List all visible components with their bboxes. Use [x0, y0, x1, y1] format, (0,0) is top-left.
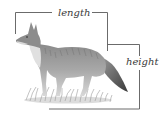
- height-label: height: [124, 56, 160, 67]
- coyote-body: [34, 44, 106, 96]
- coyote-head: [16, 22, 41, 48]
- coyote-dimension-figure: length height: [0, 0, 164, 115]
- ground-shadow: [24, 97, 112, 104]
- length-label: length: [56, 7, 92, 18]
- coyote-eye: [26, 36, 28, 38]
